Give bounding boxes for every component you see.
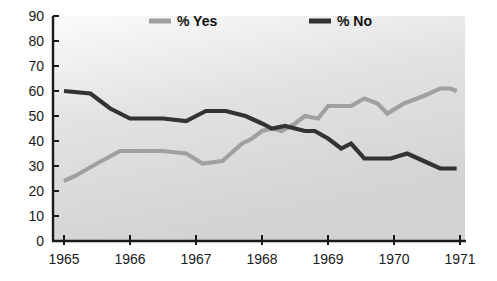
x-tick-label-1969: 1969 [312, 251, 343, 267]
legend-label-0: % Yes [177, 13, 217, 29]
x-tick-label-1970: 1970 [378, 251, 409, 267]
x-tick-label-1967: 1967 [180, 251, 211, 267]
y-tick-label-60: 60 [28, 83, 44, 99]
y-tick-label-70: 70 [28, 58, 44, 74]
y-tick-label-50: 50 [28, 108, 44, 124]
y-tick-label-0: 0 [36, 233, 44, 249]
chart-container: 0102030405060708090 19651966196719681969… [0, 0, 497, 281]
y-tick-label-30: 30 [28, 158, 44, 174]
x-tick-label-1968: 1968 [246, 251, 277, 267]
y-tick-label-10: 10 [28, 208, 44, 224]
y-tick-label-40: 40 [28, 133, 44, 149]
y-tick-label-20: 20 [28, 183, 44, 199]
plot-area-background [53, 16, 465, 241]
y-tick-label-80: 80 [28, 33, 44, 49]
x-tick-label-1965: 1965 [48, 251, 79, 267]
legend-label-1: % No [337, 13, 372, 29]
line-chart: 0102030405060708090 19651966196719681969… [0, 0, 497, 281]
x-tick-label-1966: 1966 [114, 251, 145, 267]
y-tick-label-90: 90 [28, 8, 44, 24]
x-tick-label-1971: 1971 [444, 251, 475, 267]
